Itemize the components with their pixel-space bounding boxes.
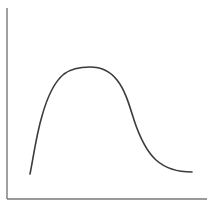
chart-canvas [0,0,214,212]
chart-background [0,0,214,212]
figure-root [0,0,214,212]
